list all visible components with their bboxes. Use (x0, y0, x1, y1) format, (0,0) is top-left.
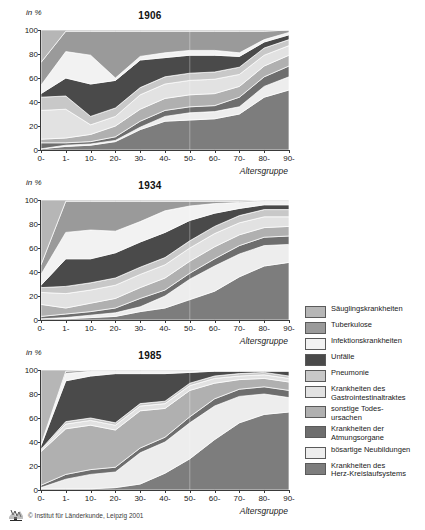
y-tick (38, 30, 41, 31)
y-tick (38, 272, 41, 273)
x-axis-caption: Altersgruppe (240, 166, 288, 176)
y-tick (38, 466, 41, 467)
x-tick-label: 1- (62, 494, 69, 503)
legend-swatch-icon (305, 386, 326, 398)
legend-swatch-icon (305, 447, 326, 459)
y-tick-label: 100 (25, 26, 38, 35)
x-tick-label: 10- (85, 324, 97, 333)
legend-item-label: Pneumonie (331, 369, 369, 378)
y-tick-label: 80 (29, 220, 38, 229)
plot-area-1906: 0204060801000-1-10-20-30-40-50-60-70-80-… (40, 30, 289, 151)
y-tick (38, 248, 41, 249)
y-tick (38, 126, 41, 127)
legend-item-label: sonstige Todes- ursachen (331, 405, 383, 422)
x-tick (165, 490, 166, 493)
y-tick (38, 102, 41, 103)
legend-item[interactable]: Tuberkulose (305, 321, 425, 334)
x-tick (215, 490, 216, 493)
credit: © Institut für Länderkunde, Leipzig 2001 (8, 508, 143, 522)
x-tick-label: 30- (134, 494, 146, 503)
y-tick-label: 100 (25, 196, 38, 205)
x-tick (289, 490, 290, 493)
legend-swatch-icon (305, 306, 326, 318)
y-tick (38, 418, 41, 419)
x-tick-label: 30- (134, 324, 146, 333)
y-tick-label: 40 (29, 438, 38, 447)
x-tick-label: 40- (159, 494, 171, 503)
y-tick (38, 78, 41, 79)
x-tick-label: 50- (184, 494, 196, 503)
x-tick-label: 50- (184, 154, 196, 163)
x-tick-label: 1- (62, 154, 69, 163)
legend-swatch-icon (305, 463, 326, 475)
y-tick (38, 296, 41, 297)
legend: SäuglingskrankheitenTuberkuloseInfektion… (305, 305, 425, 482)
legend-item[interactable]: bösartige Neubildungen (305, 446, 425, 459)
legend-swatch-icon (305, 426, 326, 438)
x-tick (190, 320, 191, 323)
x-tick-label: 50- (184, 324, 196, 333)
y-tick-label: 80 (29, 390, 38, 399)
x-tick (91, 320, 92, 323)
x-tick (239, 320, 240, 323)
x-tick-label: 90- (283, 494, 295, 503)
legend-swatch-icon (305, 322, 326, 334)
x-tick-label: 20- (110, 324, 122, 333)
legend-item[interactable]: Infektionskrankheiten (305, 337, 425, 350)
y-tick-label: 20 (29, 292, 38, 301)
x-tick (264, 320, 265, 323)
x-tick (41, 320, 42, 323)
x-tick (66, 320, 67, 323)
y-tick-label: 40 (29, 98, 38, 107)
legend-item-label: Krankheiten des Herz-Kreislaufsystems (331, 462, 406, 479)
legend-swatch-icon (305, 338, 326, 350)
legend-item-label: Säuglingskrankheiten (331, 305, 403, 314)
y-tick-label: 20 (29, 462, 38, 471)
x-tick (91, 150, 92, 153)
legend-swatch-icon (305, 354, 326, 366)
x-tick-label: 40- (159, 324, 171, 333)
legend-swatch-icon (305, 370, 326, 382)
x-tick (190, 490, 191, 493)
x-tick-label: 60- (209, 154, 221, 163)
x-tick-label: 80- (258, 154, 270, 163)
x-tick (41, 150, 42, 153)
x-tick (165, 320, 166, 323)
x-tick-label: 90- (283, 324, 295, 333)
legend-swatch-icon (305, 406, 326, 418)
x-tick-label: 80- (258, 494, 270, 503)
x-tick (140, 320, 141, 323)
legend-item-label: Infektionskrankheiten (331, 337, 402, 346)
x-tick (115, 320, 116, 323)
legend-item[interactable]: Krankheiten der Atmungsorgane (305, 425, 425, 442)
x-tick-label: 70- (234, 154, 246, 163)
y-tick-label: 80 (29, 50, 38, 59)
legend-item[interactable]: Krankheiten des Herz-Kreislaufsystems (305, 462, 425, 479)
y-tick (38, 394, 41, 395)
y-tick (38, 54, 41, 55)
x-tick-label: 20- (110, 494, 122, 503)
chart-title-1985: 1985 (0, 350, 300, 361)
legend-item[interactable]: Unfälle (305, 353, 425, 366)
legend-item-label: Krankheiten der Atmungsorgane (331, 425, 384, 442)
legend-item[interactable]: Pneumonie (305, 369, 425, 382)
legend-item[interactable]: Krankheiten des Gastrointestinaltraktes (305, 385, 425, 402)
x-tick (41, 490, 42, 493)
x-tick (239, 490, 240, 493)
y-tick-label: 40 (29, 268, 38, 277)
y-tick-label: 100 (25, 366, 38, 375)
x-tick-label: 30- (134, 154, 146, 163)
x-tick (66, 490, 67, 493)
y-tick-label: 60 (29, 244, 38, 253)
x-tick (264, 490, 265, 493)
x-tick (215, 150, 216, 153)
x-tick (66, 150, 67, 153)
x-tick (289, 320, 290, 323)
x-tick-label: 80- (258, 324, 270, 333)
x-axis-caption: Altersgruppe (240, 336, 288, 346)
legend-item[interactable]: Säuglingskrankheiten (305, 305, 425, 318)
x-tick-label: 0- (37, 154, 44, 163)
x-axis-caption: Altersgruppe (240, 506, 288, 516)
x-tick-label: 0- (37, 324, 44, 333)
legend-item[interactable]: sonstige Todes- ursachen (305, 405, 425, 422)
